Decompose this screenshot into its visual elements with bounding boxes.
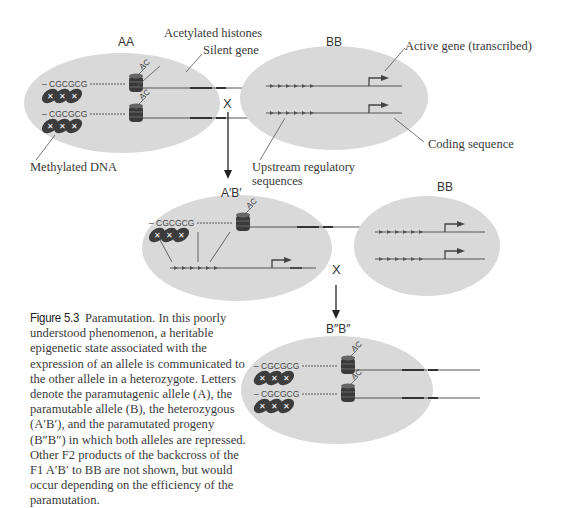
figure-caption: Figure 5.3 Paramutation. In this poorly … bbox=[30, 310, 250, 508]
callout-active-gene: Active gene (transcribed) bbox=[405, 39, 532, 53]
cell-bb-top bbox=[240, 46, 428, 150]
genotype-ab: A′B′ bbox=[221, 186, 242, 200]
cell-aa bbox=[24, 53, 220, 153]
callout-upstream-1: Upstream regulatory bbox=[252, 160, 355, 174]
cross-symbol-1: X bbox=[223, 96, 232, 111]
cell-ab bbox=[142, 195, 332, 301]
cell-bb-mid bbox=[354, 196, 500, 296]
genotype-bb-top: BB bbox=[326, 35, 342, 49]
genotype-bb-mid: BB bbox=[437, 180, 453, 194]
callout-acetylated-histones: Acetylated histones bbox=[164, 26, 262, 40]
figure-number: Figure 5.3 bbox=[30, 310, 79, 325]
caption-text: Paramutation. In this poorly understood … bbox=[30, 311, 246, 507]
cross-symbol-2: X bbox=[332, 262, 341, 277]
callout-upstream-2: sequences bbox=[252, 174, 303, 188]
callout-methylated-dna: Methylated DNA bbox=[30, 160, 117, 174]
genotype-b2b2: B″B″ bbox=[326, 322, 351, 336]
callout-silent-gene: Silent gene bbox=[203, 43, 259, 57]
genotype-aa: AA bbox=[118, 35, 134, 49]
callout-coding-sequence: Coding sequence bbox=[428, 137, 514, 151]
